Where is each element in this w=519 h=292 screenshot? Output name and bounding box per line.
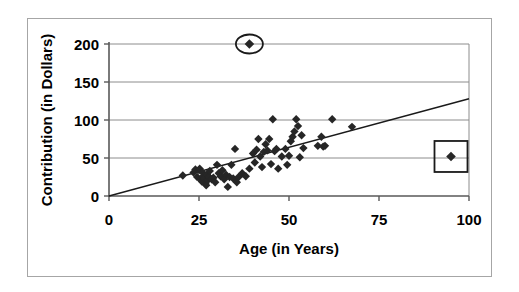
data-point-marker — [328, 115, 336, 123]
data-point-marker — [224, 183, 232, 191]
data-point-marker — [267, 160, 275, 168]
y-tick-label-150: 150 — [74, 74, 99, 91]
regression-trendline — [109, 99, 469, 196]
data-point-marker — [179, 171, 187, 179]
data-point-marker — [296, 153, 304, 161]
outlier-marker-circled-outlier — [245, 39, 255, 49]
chart-page: 200 150 100 50 0 0 25 50 75 100 Age (in … — [0, 0, 519, 292]
x-tick-label-50: 50 — [281, 211, 298, 228]
x-tick-label-75: 75 — [371, 211, 388, 228]
scatter-chart: 200 150 100 50 0 0 25 50 75 100 Age (in … — [0, 0, 519, 292]
data-point-marker — [278, 152, 286, 160]
x-tick-label-25: 25 — [191, 211, 208, 228]
data-point-marker — [269, 115, 277, 123]
y-axis-title: Contribution (in Dollars) — [38, 34, 55, 206]
data-point-marker — [254, 135, 262, 143]
data-point-marker — [251, 158, 259, 166]
x-tick-label-100: 100 — [456, 211, 481, 228]
data-point-marker — [274, 164, 282, 172]
y-tick-label-200: 200 — [74, 36, 99, 53]
outlier-marker-boxed-outlier — [446, 152, 456, 162]
x-axis-title: Age (in Years) — [239, 240, 339, 257]
y-tick-label-100: 100 — [74, 112, 99, 129]
data-point-marker — [231, 145, 239, 153]
data-point-marker — [297, 131, 305, 139]
data-point-marker — [281, 145, 289, 153]
scatter-markers — [179, 39, 456, 191]
x-tick-label-0: 0 — [105, 211, 113, 228]
data-point-marker — [285, 152, 293, 160]
y-tick-label-0: 0 — [91, 188, 99, 205]
data-point-marker — [245, 164, 253, 172]
data-point-marker — [258, 163, 266, 171]
data-point-marker — [292, 115, 300, 123]
data-point-marker — [299, 144, 307, 152]
data-point-marker — [283, 161, 291, 169]
y-tick-label-50: 50 — [82, 150, 99, 167]
